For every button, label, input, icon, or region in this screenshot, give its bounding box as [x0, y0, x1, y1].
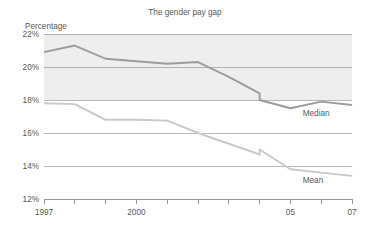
series-label-mean: Mean [303, 176, 324, 185]
y-axis-label: Percentage [25, 22, 67, 31]
y-tick-label-16: 16% [23, 129, 39, 138]
x-axis-tick-labels: 199720000507 [35, 208, 357, 217]
chart-title: The gender pay gap [148, 8, 222, 17]
y-tick-label-18: 18% [23, 96, 39, 105]
chart-container: 12%14%16%18%20%22% 199720000507 MedianMe… [0, 0, 370, 227]
x-tick-label-1997: 1997 [35, 208, 54, 217]
y-tick-label-14: 14% [23, 162, 39, 171]
x-tick-label-2000: 2000 [127, 208, 146, 217]
y-tick-label-20: 20% [23, 63, 39, 72]
y-axis-tick-labels: 12%14%16%18%20%22% [23, 30, 39, 204]
series-label-median: Median [303, 109, 330, 118]
x-tick-label-2005: 05 [286, 208, 296, 217]
y-tick-label-12: 12% [23, 195, 39, 204]
x-tick-label-2007: 07 [347, 208, 357, 217]
x-axis-ticks [44, 199, 352, 204]
gender-pay-gap-line-chart: 12%14%16%18%20%22% 199720000507 MedianMe… [0, 0, 370, 227]
y-tick-label-22: 22% [23, 30, 39, 39]
